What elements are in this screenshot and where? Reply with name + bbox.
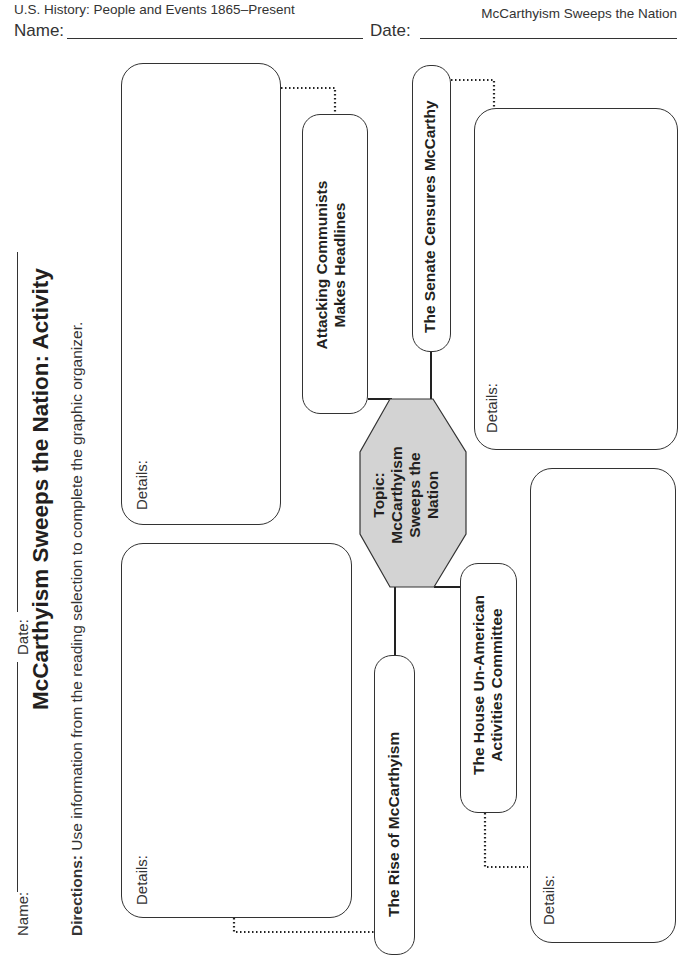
details-label-attacking: Details:: [133, 460, 150, 510]
central-topic-line1: Topic:: [370, 425, 388, 565]
subtopic-huac-line2: Activities Committee: [488, 580, 506, 790]
details-label-rise: Details:: [133, 855, 150, 905]
details-label-senate: Details:: [483, 383, 500, 433]
subtopic-attacking-line2: Makes Headlines: [331, 140, 349, 390]
central-topic-line4: Nation: [424, 425, 442, 565]
central-topic: Topic: McCarthyism Sweeps the Nation: [370, 425, 442, 565]
subtopic-huac-line1: The House Un-American: [470, 580, 488, 790]
details-box-huac[interactable]: [530, 468, 676, 943]
details-box-rise[interactable]: [121, 543, 352, 918]
central-topic-line2: McCarthyism: [388, 425, 406, 565]
subtopic-label-senate: The Senate Censures McCarthy: [421, 100, 439, 333]
subtopic-label-huac: The House Un-American Activities Committ…: [470, 580, 506, 790]
central-topic-line3: Sweeps the: [406, 425, 424, 565]
details-label-huac: Details:: [540, 875, 557, 925]
subtopic-label-attacking: Attacking Communists Makes Headlines: [313, 140, 349, 390]
details-box-senate[interactable]: [474, 108, 678, 450]
subtopic-label-rise: The Rise of McCarthyism: [385, 732, 403, 917]
details-box-attacking[interactable]: [121, 63, 281, 525]
subtopic-attacking-line1: Attacking Communists: [313, 140, 331, 390]
